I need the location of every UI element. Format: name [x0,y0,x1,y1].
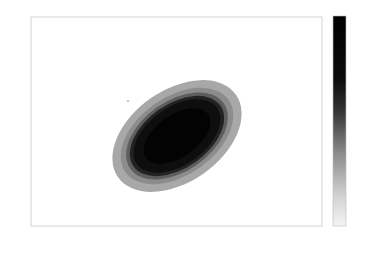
stray-point [127,100,129,102]
chart [0,0,379,254]
colorbar [333,16,346,226]
